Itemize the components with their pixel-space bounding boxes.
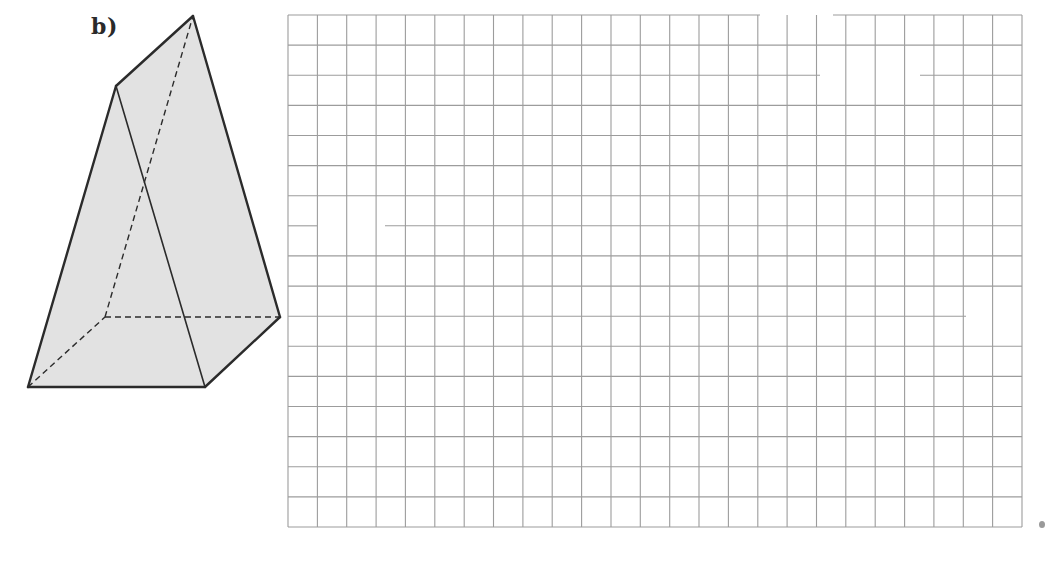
page-mark-dot [1039,521,1045,528]
prism-diagram [28,16,280,387]
prism-face-fill [28,16,280,387]
figure-label: b) [91,13,118,39]
figure-svg [0,0,1046,563]
figure-canvas: b) [0,0,1046,563]
square-grid [288,15,1022,527]
